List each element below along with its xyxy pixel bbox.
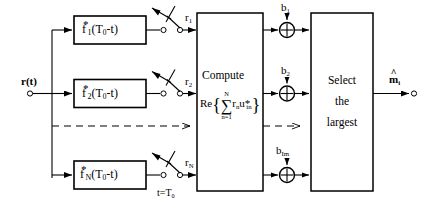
filter-label-2: f*2(T0-t)	[82, 87, 118, 101]
adder-2	[280, 78, 310, 102]
bias-label-Im: bIm	[276, 145, 289, 158]
rN-sub: N	[189, 162, 194, 169]
formula-close-brace: }	[252, 95, 261, 115]
filter-2-argrest: -t)	[107, 86, 118, 100]
r1-sub: 1	[189, 17, 192, 24]
filter-1-star: *	[83, 18, 89, 30]
filter-label-1: f*1(T0-t)	[82, 23, 118, 37]
formula-re: Re	[200, 97, 212, 109]
sampling-time-base: t=T	[157, 187, 172, 198]
input-signal-label: r(t)	[21, 76, 37, 87]
filter-N-arg: (T	[91, 167, 102, 181]
formula-open-brace: {	[212, 95, 221, 115]
filter-1-argrest: -t)	[107, 22, 118, 36]
r2-sub: 2	[189, 80, 192, 87]
hat-accent-icon: ^	[389, 68, 398, 78]
sampling-time-label: t=T0	[157, 188, 175, 199]
output-terminal-group	[373, 91, 417, 96]
compute-block-formula: Re{N∑n=1rnu*in}	[200, 90, 260, 119]
sample-output-label-N: rN	[185, 157, 194, 170]
sample-output-label-2: r2	[185, 76, 192, 89]
input-terminal-group	[27, 30, 52, 178]
block-diagram-figure: r(t) f*1(T0-t) f*2(T0-t) f*N(T0-t) r1 r2…	[0, 0, 428, 207]
select-block-line-2: the	[311, 96, 373, 108]
select-block-line-1: Select	[311, 75, 373, 87]
compute-block-title: Compute	[202, 70, 244, 82]
output-m-glyph: ^m	[389, 74, 398, 85]
filter-N-argrest: -t)	[106, 167, 117, 181]
filter-label-N: f*N(T0-t)	[80, 168, 118, 182]
bIm-sub: Im	[282, 150, 290, 157]
sigma-glyph: ∑	[221, 98, 232, 114]
filter-1-arg: (T	[92, 22, 103, 36]
filter-2-star: *	[83, 82, 89, 94]
adder-1	[280, 14, 310, 38]
output-label: ^mi	[389, 74, 400, 87]
adder-Im	[280, 158, 310, 183]
summation-symbol-group: N∑n=1	[221, 91, 232, 120]
bias-label-1: b1	[281, 2, 290, 15]
b2-sub: 2	[287, 70, 290, 77]
b1-sub: 1	[287, 7, 290, 14]
filter-2-arg: (T	[92, 86, 103, 100]
sample-output-label-1: r1	[185, 12, 192, 25]
sum-lower-limit: n=1	[221, 114, 232, 121]
select-block-line-3: largest	[311, 117, 373, 129]
output-m-sub: i	[398, 79, 400, 86]
bias-label-2: b2	[281, 65, 290, 78]
sampling-time-sub: 0	[172, 192, 175, 199]
filter-N-star: *	[81, 163, 87, 175]
